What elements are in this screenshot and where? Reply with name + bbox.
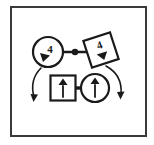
node-bottom-left[interactable] <box>51 76 76 101</box>
node-bottom-right[interactable] <box>81 74 109 102</box>
diagram-canvas: 4 4 <box>0 0 154 145</box>
canvas-background <box>0 0 154 145</box>
node-top-left-label: 4 <box>47 43 53 55</box>
edge-top-link-midpoint-dot <box>72 49 78 55</box>
figure-root: 4 4 <box>0 0 154 145</box>
node-top-left[interactable]: 4 <box>33 37 63 67</box>
